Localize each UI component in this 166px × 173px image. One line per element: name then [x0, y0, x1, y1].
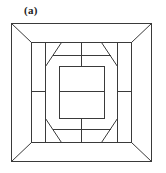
octagon-diagonal-bottom-left: [46, 119, 62, 143]
miter-diagonal-top-left: [12, 24, 32, 43]
figure-container: (a): [0, 0, 166, 173]
octagon-diagonal-bottom-right: [102, 119, 118, 143]
miter-diagonal-bottom-left: [12, 143, 32, 162]
miter-diagonal-top-right: [132, 24, 152, 43]
center-medallion-rect: [60, 67, 105, 119]
octagon-diagonal-top-right: [102, 43, 118, 67]
quilt-block-diagram: [0, 0, 166, 173]
octagon-diagonal-top-left: [46, 43, 62, 67]
miter-diagonal-bottom-right: [132, 143, 152, 162]
